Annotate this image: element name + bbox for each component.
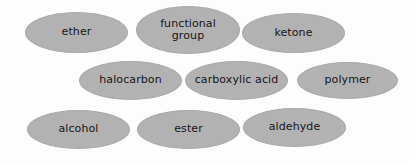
word-bubble[interactable]: alcohol bbox=[27, 110, 130, 149]
word-bubble-label: ester bbox=[168, 123, 209, 136]
word-bubble-label: halocarbon bbox=[93, 74, 168, 87]
word-bubble[interactable]: polymer bbox=[297, 62, 398, 99]
word-bubble[interactable]: ketone bbox=[242, 13, 345, 53]
word-bubble[interactable]: ether bbox=[25, 12, 128, 53]
word-bank-container: etherfunctional groupketonehalocarboncar… bbox=[0, 0, 415, 165]
word-bubble[interactable]: halocarbon bbox=[79, 61, 182, 100]
word-bubble[interactable]: ester bbox=[137, 110, 240, 149]
word-bubble[interactable]: functional group bbox=[136, 6, 240, 54]
word-bubble-label: ether bbox=[56, 26, 98, 39]
word-bubble-label: ketone bbox=[268, 27, 318, 40]
word-bubble-label: alcohol bbox=[52, 123, 104, 136]
word-bubble-label: functional group bbox=[154, 18, 222, 43]
word-bubble[interactable]: aldehyde bbox=[243, 108, 346, 147]
word-bubble-label: aldehyde bbox=[263, 121, 327, 134]
word-bubble-label: polymer bbox=[319, 74, 377, 87]
word-bubble[interactable]: carboxylic acid bbox=[185, 61, 288, 100]
word-bubble-label: carboxylic acid bbox=[189, 74, 285, 87]
